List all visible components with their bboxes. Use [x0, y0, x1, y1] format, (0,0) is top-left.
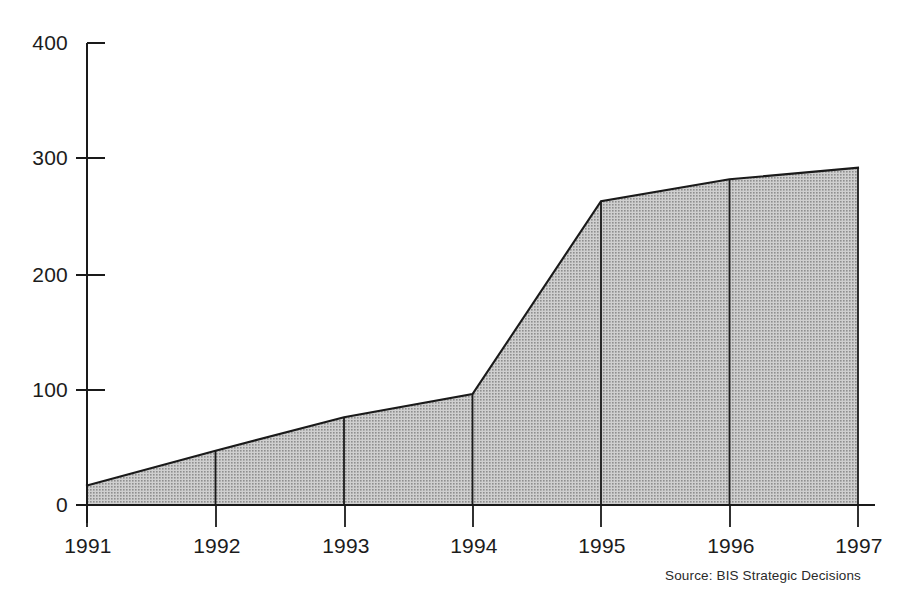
y-axis-tick-label-100: 100	[8, 378, 68, 402]
y-axis-tick-label-300: 300	[8, 146, 68, 170]
x-axis-tick-label-1997: 1997	[813, 534, 905, 558]
chart-container: 400 300 200 100 0 1991 1992 1993 1994 19…	[0, 0, 905, 603]
x-axis-tick-label-1995: 1995	[556, 534, 648, 558]
y-axis-tick-label-200: 200	[8, 263, 68, 287]
y-axis-tick-label-0: 0	[8, 493, 68, 517]
x-axis-tick-label-1991: 1991	[42, 534, 134, 558]
x-axis-tick-label-1994: 1994	[428, 534, 520, 558]
x-axis-tick-label-1996: 1996	[685, 534, 777, 558]
x-axis-tick-label-1993: 1993	[300, 534, 392, 558]
area-chart-plot	[0, 0, 905, 603]
y-axis-tick-label-400: 400	[8, 31, 68, 55]
source-note: Source: BIS Strategic Decisions	[665, 568, 861, 583]
x-axis-tick-label-1992: 1992	[171, 534, 263, 558]
